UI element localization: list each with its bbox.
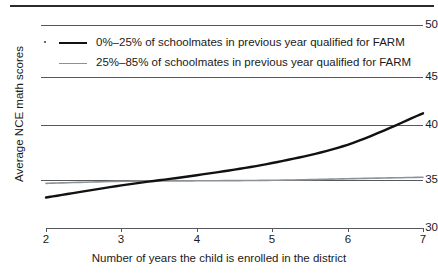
legend-swatch-light-icon xyxy=(59,63,87,64)
chart-legend: 0%–25% of schoolmates in previous year q… xyxy=(59,33,429,73)
legend-label-0-25: 0%–25% of schoolmates in previous year q… xyxy=(96,37,405,49)
series-line-0-25 xyxy=(46,113,423,197)
legend-item-0-25: 0%–25% of schoolmates in previous year q… xyxy=(59,33,429,53)
legend-item-25-85: 25%–85% of schoolmates in previous year … xyxy=(59,53,429,73)
legend-label-25-85: 25%–85% of schoolmates in previous year … xyxy=(96,57,411,69)
chart-figure: Average NCE math scores 50 45 40 35 30 2… xyxy=(0,0,438,274)
series-line-25-85 xyxy=(46,177,423,183)
legend-swatch-dark-icon xyxy=(59,42,87,44)
